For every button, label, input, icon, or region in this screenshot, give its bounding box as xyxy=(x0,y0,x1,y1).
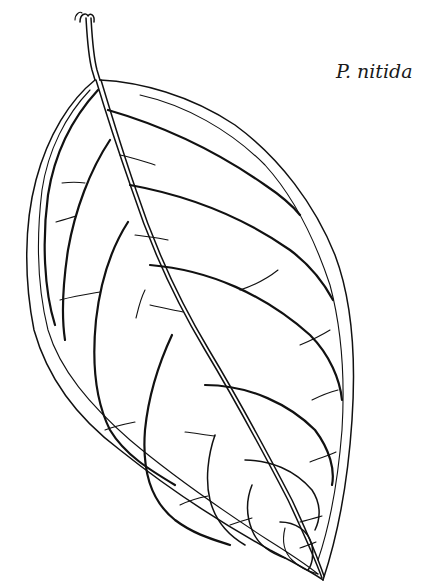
species-caption: P. nitida xyxy=(336,60,413,82)
tertiary-veins xyxy=(56,155,338,548)
petiole xyxy=(75,12,100,80)
leaf-illustration xyxy=(0,0,443,586)
leaf-figure: P. nitida xyxy=(0,0,443,586)
midrib xyxy=(96,80,324,578)
secondary-veins-right xyxy=(108,110,342,570)
